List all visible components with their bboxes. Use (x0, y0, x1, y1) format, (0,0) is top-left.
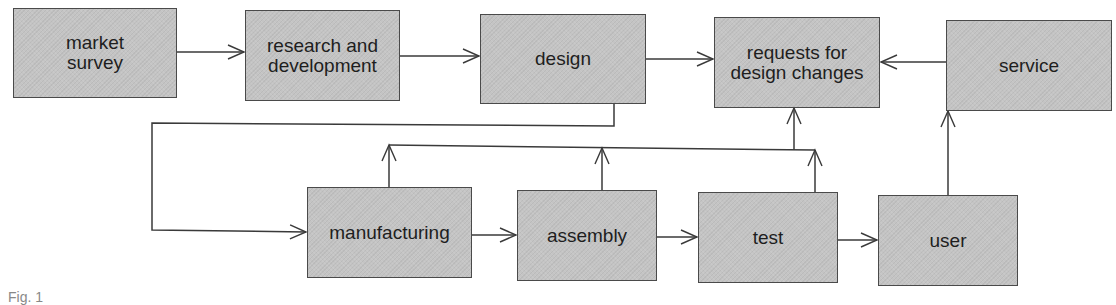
node-manufacturing: manufacturing (307, 187, 472, 278)
node-label: requests for design changes (730, 43, 863, 83)
node-service: service (946, 20, 1112, 111)
figure-caption: Fig. 1 (8, 289, 43, 305)
node-label: research and development (267, 36, 378, 76)
node-test: test (698, 192, 838, 283)
node-assembly: assembly (517, 190, 657, 281)
node-label: market survey (66, 33, 124, 73)
node-label: assembly (547, 226, 627, 246)
node-design: design (480, 14, 646, 104)
node-requests-for-design-changes: requests for design changes (714, 17, 880, 108)
node-market-survey: market survey (13, 8, 177, 98)
node-user: user (878, 195, 1018, 286)
node-label: manufacturing (329, 223, 449, 243)
node-research-and-development: research and development (245, 10, 400, 101)
node-label: test (753, 228, 784, 248)
node-label: design (535, 49, 591, 69)
node-label: service (999, 56, 1059, 76)
node-label: user (930, 231, 967, 251)
